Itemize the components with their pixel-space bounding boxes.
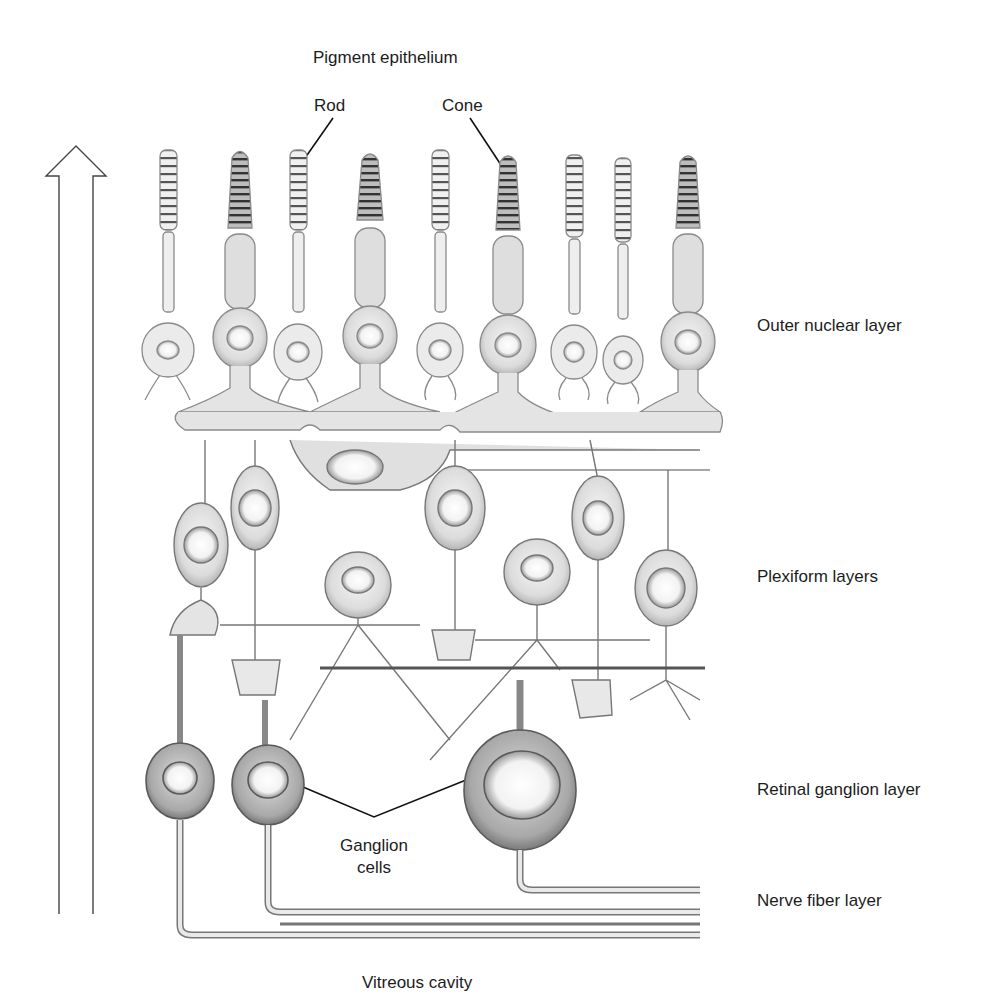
rod-cell (603, 158, 643, 404)
ganglion-pointer (303, 778, 471, 817)
bipolar-cell (572, 440, 624, 718)
retina-diagram (0, 0, 1008, 1008)
light-arrow-icon (46, 146, 106, 914)
cone-cell (310, 154, 440, 412)
rod-cell (274, 150, 322, 402)
bipolar-cell (231, 440, 280, 695)
cone-pointer (470, 118, 503, 168)
photoreceptor-layer (142, 150, 723, 432)
bipolar-cell (170, 440, 228, 635)
bipolar-cell (630, 470, 700, 720)
plexiform-layer (170, 440, 710, 760)
ganglion-layer (146, 635, 700, 935)
rod-cell (551, 155, 597, 400)
rod-cell (417, 150, 463, 400)
rod-cell (142, 150, 194, 400)
cone-cell (450, 156, 560, 415)
cone-cell (640, 156, 720, 412)
